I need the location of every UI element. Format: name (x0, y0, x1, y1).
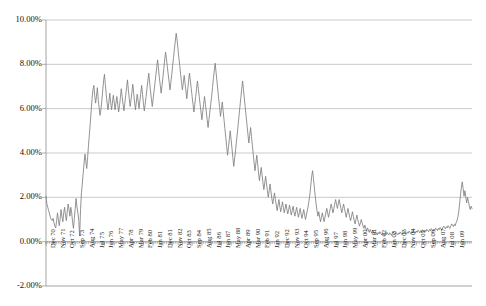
x-axis-tick-label: Jul 86 (215, 232, 222, 248)
x-axis-tick-label: Jun 09 (458, 230, 465, 247)
y-axis-tick-label: 2.00% (0, 191, 42, 201)
x-axis-tick-label: Nov 04 (409, 228, 416, 248)
y-axis-tick-label: 4.00% (0, 147, 42, 157)
inflation-rate-line-chart: 10.00%8.00%6.00%4.00%2.00%0.00%-2.00% De… (0, 0, 486, 306)
x-axis-tick-label: Feb 91 (263, 230, 270, 248)
y-axis-tick-label: -2.00% (0, 280, 42, 290)
x-axis-tick-label: Nov 93 (293, 228, 300, 248)
y-axis-tick-label: 8.00% (0, 58, 42, 68)
x-axis-tick-label: Sep 73 (78, 230, 85, 248)
x-axis-tick-label: Apr 78 (127, 229, 134, 248)
x-axis-tick-label: Jun 87 (224, 230, 231, 247)
x-axis-tick-label: Dec 81 (166, 229, 173, 248)
x-axis-tick-label: Dec 70 (49, 229, 56, 248)
x-axis-tick-label: Nov 82 (176, 228, 183, 248)
x-axis-tick-label: Sep 84 (195, 230, 202, 248)
x-axis-tick-label: Jan 81 (156, 231, 163, 248)
x-axis-tick-label: Mar 01 (370, 228, 377, 247)
x-axis-tick-label: Jul 97 (332, 232, 339, 248)
x-axis-tick-label: Feb 80 (146, 230, 153, 248)
x-axis-tick-label: Mar 79 (137, 228, 144, 247)
x-axis-tick-label: Jun 76 (107, 230, 114, 247)
chart-canvas (0, 0, 486, 306)
x-axis-tick-label: May 77 (117, 227, 124, 247)
x-axis-tick-label: Aug 85 (205, 228, 212, 248)
x-axis-tick-label: Aug 74 (88, 228, 95, 248)
y-axis-tick-label: 0.00% (0, 236, 42, 246)
x-axis-tick-label: Jan 03 (390, 231, 397, 248)
x-axis-tick-label: Jul 75 (98, 232, 105, 248)
x-axis-tick-label: May 99 (351, 227, 358, 247)
x-axis-tick-label: Oct 05 (419, 230, 426, 248)
x-axis-tick-label: Mar 90 (254, 228, 261, 247)
x-axis-tick-label: Apr 00 (361, 229, 368, 248)
x-axis-tick-label: Oct 83 (185, 230, 192, 248)
x-axis-tick-label: Dec 03 (400, 229, 407, 248)
x-axis-tick-label: Jul 08 (448, 232, 455, 248)
x-axis-tick-label: Sep 06 (429, 230, 436, 248)
x-axis-tick-label: Apr 89 (244, 229, 251, 248)
x-axis-tick-label: Aug 07 (439, 228, 446, 248)
x-axis-tick-label: Sep 95 (312, 230, 319, 248)
x-axis-tick-label: Feb 02 (380, 230, 387, 248)
x-axis-tick-label: May 88 (234, 227, 241, 247)
x-axis-tick-label: Oct 94 (302, 230, 309, 248)
y-axis-tick-label: 6.00% (0, 103, 42, 113)
x-axis-tick-label: Jun 98 (341, 230, 348, 247)
x-axis-tick-label: Oct 72 (68, 230, 75, 248)
x-axis-tick-label: Jan 92 (273, 231, 280, 248)
data-series-line (46, 33, 472, 236)
x-axis-tick-label: Aug 96 (322, 228, 329, 248)
x-axis-tick-label: Nov 71 (59, 228, 66, 248)
y-axis-tick-label: 10.00% (0, 14, 42, 24)
x-axis-tick-label: Dec 92 (283, 229, 290, 248)
